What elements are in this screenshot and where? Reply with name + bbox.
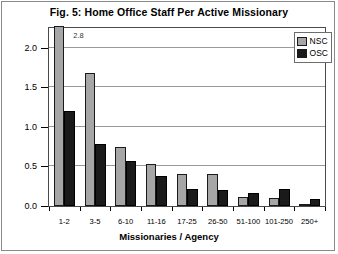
y-tick-mark xyxy=(41,48,48,49)
bar-osc-26-50[interactable] xyxy=(218,190,229,206)
bar-nsc-26-50[interactable] xyxy=(207,174,218,206)
bar-nsc-11-16[interactable] xyxy=(146,164,157,206)
bar-nsc-1-2[interactable] xyxy=(54,26,65,206)
bar-osc-101-250[interactable] xyxy=(279,189,290,206)
bar-group xyxy=(207,28,228,206)
bar-nsc-6-10[interactable] xyxy=(115,147,126,206)
y-tick-label: 1.0 xyxy=(24,122,37,132)
legend-item-nsc[interactable]: NSC xyxy=(297,36,328,47)
x-tick-label: 250+ xyxy=(301,217,318,226)
bar-nsc-250plus[interactable] xyxy=(299,204,310,206)
plot-inner: 2.8 xyxy=(49,28,325,206)
x-tick-label: 17-25 xyxy=(177,217,196,226)
legend-swatch-osc xyxy=(297,49,307,58)
x-tick-mark xyxy=(294,207,295,211)
y-axis: 0.00.51.01.52.0 xyxy=(0,27,48,208)
bar-group xyxy=(115,28,136,206)
x-tick-label: 51-100 xyxy=(237,217,261,226)
x-tick-label: 101-250 xyxy=(265,217,293,226)
bar-nsc-3-5[interactable] xyxy=(85,73,96,206)
x-tick-mark xyxy=(264,207,265,211)
bar-group xyxy=(146,28,167,206)
bar-osc-6-10[interactable] xyxy=(126,161,137,206)
x-tick-mark xyxy=(172,207,173,211)
legend-label-nsc: NSC xyxy=(310,37,328,46)
chart-legend: NSC OSC xyxy=(294,32,332,63)
y-tick-mark xyxy=(41,127,48,128)
figure-container: Fig. 5: Home Office Staff Per Active Mis… xyxy=(0,0,338,254)
x-axis-title: Missionaries / Agency xyxy=(0,231,338,242)
bar-group xyxy=(54,28,75,206)
y-tick-mark xyxy=(41,87,48,88)
bar-group xyxy=(177,28,198,206)
bars-layer: 2.8 xyxy=(49,28,325,206)
x-tick-mark xyxy=(49,207,50,211)
y-tick-label: 0.5 xyxy=(24,161,37,171)
plot-area: 2.8 xyxy=(48,27,326,207)
bar-nsc-17-25[interactable] xyxy=(177,174,188,206)
bar-osc-1-2[interactable] xyxy=(64,111,75,206)
y-tick-mark xyxy=(41,166,48,167)
legend-swatch-nsc xyxy=(297,37,307,46)
x-tick-mark xyxy=(233,207,234,211)
x-tick-mark xyxy=(202,207,203,211)
x-tick-label: 3-5 xyxy=(90,217,101,226)
y-tick-label: 1.5 xyxy=(24,82,37,92)
x-tick-mark xyxy=(110,207,111,211)
x-tick-mark xyxy=(141,207,142,211)
bar-osc-17-25[interactable] xyxy=(187,189,198,206)
y-tick-label: 0.0 xyxy=(24,201,37,211)
bar-osc-3-5[interactable] xyxy=(95,144,106,206)
x-axis: 1-23-56-1011-1617-2526-5051-100101-25025… xyxy=(48,207,326,229)
x-tick-mark xyxy=(325,207,326,211)
bar-osc-250plus[interactable] xyxy=(310,199,321,206)
legend-label-osc: OSC xyxy=(310,49,328,58)
bar-value-label: 2.8 xyxy=(73,31,83,40)
bar-group xyxy=(85,28,106,206)
x-tick-label: 26-50 xyxy=(208,217,227,226)
bar-osc-51-100[interactable] xyxy=(248,193,259,206)
x-tick-mark xyxy=(80,207,81,211)
y-tick-label: 2.0 xyxy=(24,43,37,53)
legend-item-osc[interactable]: OSC xyxy=(297,48,328,59)
bar-nsc-101-250[interactable] xyxy=(269,198,280,206)
bar-nsc-51-100[interactable] xyxy=(238,197,249,206)
chart-title: Fig. 5: Home Office Staff Per Active Mis… xyxy=(0,6,338,18)
y-tick-mark xyxy=(41,206,48,207)
bar-group xyxy=(238,28,259,206)
x-tick-label: 11-16 xyxy=(147,217,166,226)
bar-osc-11-16[interactable] xyxy=(156,176,167,206)
x-tick-label: 1-2 xyxy=(59,217,70,226)
bar-group xyxy=(269,28,290,206)
x-tick-label: 6-10 xyxy=(118,217,133,226)
